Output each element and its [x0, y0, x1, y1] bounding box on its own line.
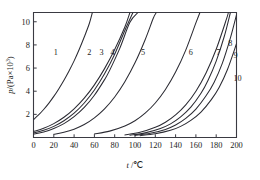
- x-tick-labels: 020406080100120140160180200: [31, 141, 242, 150]
- x-tick-label: 0: [31, 141, 35, 150]
- plot-frame: [34, 13, 237, 138]
- curve-6: [94, 13, 200, 135]
- chart-figure: 12345678910 020406080100120140160180200 …: [0, 0, 260, 180]
- vapour-pressure-chart: 12345678910 020406080100120140160180200 …: [0, 0, 260, 180]
- curve-2: [34, 13, 130, 132]
- curve-9: [135, 15, 237, 136]
- x-tick-label: 100: [129, 141, 142, 150]
- y-tick-labels: 246810: [22, 18, 31, 120]
- x-axis-unit: ℃: [133, 160, 143, 170]
- curve-series-group: [34, 13, 237, 136]
- x-tick-label: 140: [169, 141, 182, 150]
- x-tick-label: 20: [50, 141, 58, 150]
- x-tick-label: 160: [190, 141, 203, 150]
- y-axis-title: p/(Pa×103): [5, 56, 15, 95]
- curve-4: [34, 13, 139, 135]
- curve-label-2: 2: [87, 48, 91, 57]
- curve-label-10: 10: [233, 74, 241, 83]
- y-tick-label: 10: [22, 18, 30, 27]
- curve-label-1: 1: [54, 48, 58, 57]
- y-tick-label: 4: [26, 87, 31, 96]
- curve-label-7: 7: [216, 48, 220, 57]
- y-axis-unit-open: /(Pa×10: [5, 62, 15, 89]
- curve-label-4: 4: [111, 48, 115, 57]
- curve-labels-group: 12345678910: [54, 39, 242, 83]
- y-tick-label: 8: [26, 41, 30, 50]
- curve-8: [130, 13, 230, 136]
- x-tick-label: 40: [70, 141, 78, 150]
- axis-frame: [34, 13, 237, 138]
- curve-label-3: 3: [99, 48, 103, 57]
- y-axis-unit-close: ): [5, 56, 15, 59]
- y-tick-label: 2: [26, 110, 30, 119]
- y-tick-label: 6: [26, 64, 30, 73]
- curve-3: [34, 13, 133, 133]
- curve-label-5: 5: [141, 48, 145, 57]
- curve-label-9: 9: [233, 51, 237, 60]
- curve-label-8: 8: [228, 39, 232, 48]
- x-tick-label: 200: [230, 141, 243, 150]
- x-tick-label: 180: [210, 141, 223, 150]
- x-tick-label: 80: [111, 141, 119, 150]
- curve-label-6: 6: [189, 48, 193, 57]
- x-tick-label: 120: [149, 141, 162, 150]
- x-axis-title: t /℃: [127, 160, 144, 170]
- x-tick-label: 60: [90, 141, 98, 150]
- curve-10: [140, 44, 236, 136]
